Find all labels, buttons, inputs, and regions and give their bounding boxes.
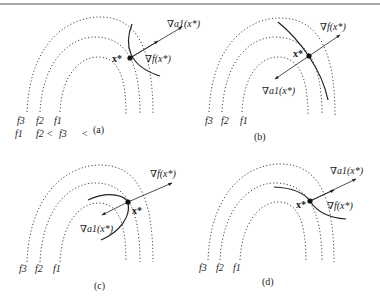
optimum-point — [306, 53, 311, 58]
contour-label-f3: f3 — [19, 263, 27, 274]
panel-caption-b: (b) — [254, 131, 266, 143]
grad-f-label: ∇f(x*) — [150, 168, 177, 180]
ordering-f1: f1 — [15, 128, 23, 139]
panel-d: x* ∇a1(x*) ∇f(x*) f3 f2 f1 (d) — [199, 164, 364, 288]
optimum-point — [125, 199, 130, 204]
contour-label-f2: f2 — [216, 262, 224, 273]
contour-f2 — [40, 37, 140, 115]
ordering-f3: f3 — [59, 128, 67, 139]
contour-label-f1: f1 — [240, 115, 248, 126]
contour-f3 — [27, 17, 153, 115]
contour-label-f2: f2 — [221, 115, 229, 126]
figure-canvas: x* ∇a1(x*) ∇f(x*) f3 f2 f1 f1 f2 < f3 < … — [0, 0, 380, 302]
panel-b: x* ∇f(x*) ∇a1(x*) f3 f2 f1 (b) — [205, 18, 347, 143]
grad-f-label: ∇f(x*) — [327, 200, 354, 212]
panel-caption-a: (a) — [93, 124, 104, 136]
panel-caption-d: (d) — [262, 276, 274, 288]
contour-label-f3: f3 — [199, 262, 207, 273]
ordering-f2: f2 < — [36, 128, 53, 139]
point-label: x* — [293, 48, 303, 59]
grad-a1-label: ∇a1(x*) — [167, 18, 201, 30]
grad-f-label: ∇f(x*) — [145, 53, 172, 65]
grad-a1-label: ∇a1(x*) — [262, 85, 296, 97]
point-label: x* — [296, 199, 306, 210]
contour-f2 — [222, 37, 322, 115]
grad-a1-label: ∇a1(x*) — [330, 165, 364, 177]
contour-label-f1: f1 — [233, 262, 241, 273]
contour-f1 — [240, 202, 306, 262]
contour-label-f3: f3 — [17, 115, 25, 126]
contour-f1 — [60, 57, 126, 115]
point-label: x* — [112, 53, 122, 64]
grad-a1-vector — [102, 202, 128, 215]
grad-a1-label: ∇a1(x*) — [80, 223, 114, 235]
grad-a1-vector — [275, 56, 309, 79]
point-label: x* — [132, 205, 142, 216]
contour-f3 — [209, 18, 335, 115]
contour-f2 — [220, 183, 322, 262]
contour-label-f2: f2 — [35, 263, 43, 274]
panel-a: x* ∇a1(x*) ∇f(x*) f3 f2 f1 f1 f2 < f3 < … — [15, 17, 201, 139]
constraint-curve — [128, 24, 160, 76]
grad-f-vector — [309, 35, 340, 56]
contour-f3 — [208, 164, 334, 262]
panel-caption-c: (c) — [94, 280, 105, 292]
contour-label-f1: f1 — [53, 263, 61, 274]
contour-label-f1: f1 — [54, 115, 62, 126]
grad-f-label: ∇f(x*) — [320, 21, 347, 33]
panel-c: x* ∇f(x*) ∇a1(x*) f3 f2 f1 (c) — [19, 165, 177, 292]
contour-label-f3: f3 — [205, 115, 213, 126]
contour-label-f2: f2 — [36, 115, 44, 126]
optimum-point — [127, 55, 132, 60]
ordering-lt: < — [82, 128, 88, 139]
optimum-point — [307, 198, 312, 203]
grad-f-vector — [128, 183, 172, 202]
